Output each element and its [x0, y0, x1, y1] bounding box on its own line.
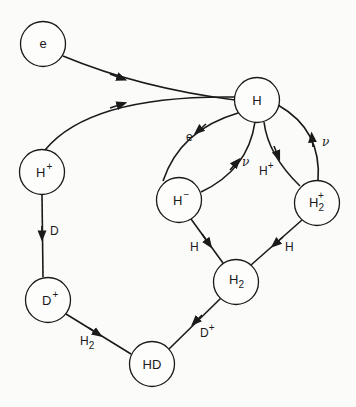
edge-Hplus-to-H: [45, 97, 235, 150]
svg-text:HD: HD: [143, 357, 162, 372]
node-HD: HD: [130, 342, 175, 387]
edge-label-H-right: H: [285, 240, 294, 254]
svg-text:e: e: [39, 36, 46, 51]
edge-H2plus-to-H2: [251, 220, 302, 265]
node-Dplus: D+: [26, 278, 71, 323]
node-e: e: [21, 22, 66, 67]
node-H2: H2: [214, 260, 259, 305]
diagram-svg: e ν H+ ν H H D D+ H2 e H H+ H− H2+ H2 D+…: [0, 0, 356, 407]
edge-label-Dplus: D+: [200, 322, 215, 340]
edge-label-H2: H2: [80, 334, 95, 351]
svg-text:H: H: [252, 93, 261, 108]
edge-label-e: e: [186, 130, 193, 144]
edge-Dplus-to-HD: [66, 314, 131, 354]
edge-label-nu-outer: ν: [322, 135, 329, 149]
edge-label-H-left: H: [190, 240, 199, 254]
node-H: H: [235, 78, 280, 123]
edge-e-to-H: [63, 56, 235, 100]
edge-label-Hplus: H+: [259, 160, 274, 178]
node-Hplus: H+: [20, 150, 65, 195]
edge-label-D: D: [50, 224, 59, 238]
node-H2plus: H2+: [295, 181, 340, 226]
edge-H-to-H2plus: [264, 122, 300, 186]
edge-Hplus-to-Dplus: [42, 195, 43, 277]
node-Hminus: H−: [157, 178, 202, 223]
edge-H-to-Hminus: [163, 113, 238, 181]
edge-label-nu-inner: ν: [242, 155, 249, 169]
reaction-diagram: e ν H+ ν H H D D+ H2 e H H+ H− H2+ H2 D+…: [0, 0, 356, 407]
edge-H2plus-to-H: [278, 105, 318, 181]
